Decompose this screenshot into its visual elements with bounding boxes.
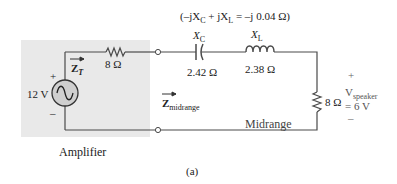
resistor-speaker-icon (313, 92, 321, 112)
terminal-top (155, 49, 160, 54)
inductor-name-label: XL (251, 29, 263, 43)
circuit-diagram: + 12 V – ZT 8 Ω Amplifier (–jXC + jXL = … (0, 0, 397, 184)
wire-inductor-to-right (274, 52, 317, 92)
speaker-resistor-value: 8 Ω (325, 97, 341, 108)
net-reactance-expression: (–jXC + jXL = –j 0.04 Ω) (180, 11, 290, 25)
internal-resistor-value: 8 Ω (105, 59, 121, 70)
inductor-value-label: 2.38 Ω (245, 64, 275, 75)
inductor-icon (246, 46, 274, 52)
zt-label: ZT (71, 63, 83, 77)
midrange-branch-label: Midrange (245, 118, 292, 130)
capacitor-name-label: XC (193, 30, 205, 44)
source-voltage-label: 12 V (27, 89, 49, 100)
zmidrange-label: Zmidrange (162, 98, 200, 112)
source-plus-sign: + (50, 71, 56, 82)
speaker-voltage-label: Vspeaker (345, 87, 377, 101)
wire-right-bottom (161, 112, 317, 130)
figure-caption: (a) (186, 166, 198, 177)
speaker-plus-sign: + (348, 70, 354, 81)
capacitor-value-label: 2.42 Ω (187, 67, 217, 78)
speaker-minus-sign: – (348, 113, 354, 124)
source-minus-sign: – (50, 108, 56, 119)
terminal-bottom (155, 127, 160, 132)
amplifier-label: Amplifier (59, 146, 106, 158)
speaker-voltage-value: = 6 V (345, 101, 370, 112)
